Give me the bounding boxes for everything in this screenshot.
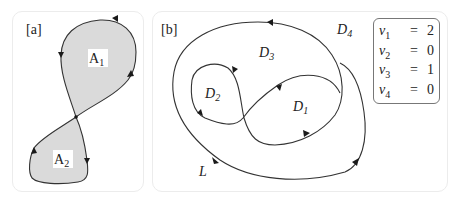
arrow-icon: [267, 19, 273, 26]
winding-row-1: ν1 = 2: [379, 23, 434, 43]
winding-value-2: 0: [425, 43, 434, 59]
region-label-d2: D2: [204, 86, 220, 103]
lobe-a1: [61, 20, 136, 117]
region-label-d1: D1: [292, 99, 308, 116]
winding-row-4: ν4 = 0: [379, 82, 434, 102]
arrow-icon: [276, 84, 282, 91]
region-label-d3: D3: [258, 45, 274, 62]
curve-label-l: L: [198, 164, 207, 179]
winding-value-3: 1: [425, 62, 434, 78]
winding-row-2: ν2 = 0: [379, 43, 434, 63]
arrow-icon: [232, 66, 238, 73]
winding-value-1: 2: [425, 23, 434, 39]
crossing-point: [74, 115, 78, 119]
panel-a-label: [a]: [26, 22, 42, 37]
winding-row-3: ν3 = 1: [379, 62, 434, 82]
region-label-d4: D4: [336, 22, 352, 39]
winding-value-4: 0: [425, 82, 434, 98]
panel-b-label: [b]: [161, 22, 177, 37]
winding-number-box: ν1 = 2 ν2 = 0 ν3 = 1 ν4 = 0: [373, 18, 440, 104]
